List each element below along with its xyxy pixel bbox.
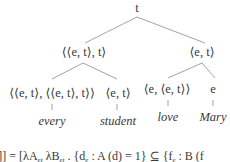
- node-quantifier-np: ⟨⟨e, t⟩, t⟩: [62, 45, 107, 59]
- denotation-formula: ery]] = [λAet λBet . {de : A (d) = 1} ⊆ …: [0, 149, 204, 162]
- edge-root-left: [85, 17, 137, 43]
- edge-right-mary: [202, 63, 215, 78]
- node-noun-type: ⟨e, t⟩: [105, 86, 130, 100]
- tree-edges: [0, 0, 230, 162]
- edge-right-love: [168, 63, 202, 78]
- edge-left-student: [83, 63, 117, 79]
- leaf-every: every: [38, 114, 65, 128]
- node-vp: ⟨e, t⟩: [189, 45, 214, 59]
- edge-left-every: [52, 63, 83, 79]
- leaf-love: love: [158, 110, 179, 124]
- node-determiner-type: ⟨⟨e, t⟩, ⟨⟨e, t⟩, t⟩⟩: [9, 86, 95, 100]
- edge-root-right: [137, 17, 205, 43]
- node-object-type: e: [210, 82, 216, 96]
- leaf-mary: Mary: [199, 110, 226, 124]
- root-node: t: [135, 1, 138, 15]
- node-verb-type: ⟨e, ⟨e, t⟩⟩: [144, 82, 191, 96]
- leaf-student: student: [100, 114, 136, 128]
